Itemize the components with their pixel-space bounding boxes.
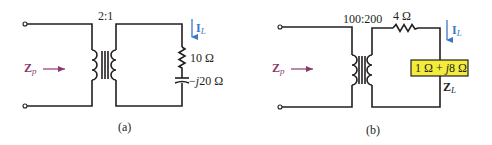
current-label-a: IL (196, 21, 206, 36)
terminal-bottom-b (278, 105, 282, 109)
resistor-icon (179, 47, 185, 78)
current-label-b: IL (452, 23, 462, 38)
turns-ratio-label-b: 100:200 (343, 12, 382, 26)
capacitor-plate-icon (175, 82, 189, 84)
transformer-a: 2:1 (92, 9, 116, 80)
circuit-a-secondary-wiring: 10 Ω −j20 Ω (116, 24, 223, 106)
primary-coil-icon (92, 50, 97, 80)
series-resistor-icon (393, 25, 440, 61)
primary-coil-icon (352, 55, 357, 85)
capacitor-label-a: −j20 Ω (189, 74, 223, 88)
load-current-a: IL (192, 19, 206, 37)
caption-a: (a) (118, 120, 131, 134)
input-impedance-b: Zp (272, 61, 313, 76)
series-resistor-label-b: 4 Ω (393, 9, 411, 23)
load-impedance-value: 1 Ω + j8 Ω (415, 61, 467, 75)
circuit-b: 100:200 4 Ω 1 Ω + j8 Ω ZL IL Zp (b) (272, 9, 468, 137)
secondary-coil-icon (367, 55, 372, 85)
circuit-a: 2:1 10 Ω −j20 Ω IL Zp (a) (23, 9, 223, 134)
circuit-a-primary-wiring (23, 22, 92, 108)
zl-label-b: ZL (443, 80, 456, 95)
load-current-b: IL (447, 20, 462, 40)
caption-b: (b) (366, 123, 380, 137)
zp-label-a: Zp (24, 61, 37, 76)
secondary-coil-icon (111, 50, 116, 80)
transformer-b: 100:200 (343, 12, 382, 85)
zp-label-b: Zp (272, 61, 285, 76)
circuit-b-primary-wiring (278, 25, 352, 109)
input-impedance-a: Zp (24, 61, 65, 76)
resistor-label-a: 10 Ω (190, 51, 214, 65)
terminal-top-a (23, 22, 27, 26)
turns-ratio-label-a: 2:1 (98, 9, 113, 23)
terminal-top-b (278, 25, 282, 29)
transformer-circuits-figure: 2:1 10 Ω −j20 Ω IL Zp (a) (0, 0, 492, 145)
terminal-bottom-a (23, 104, 27, 108)
